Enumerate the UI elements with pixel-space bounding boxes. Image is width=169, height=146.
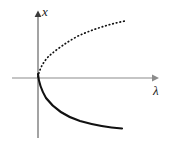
bifurcation-diagram-svg: x λ bbox=[0, 0, 169, 146]
x-axis-label: x bbox=[41, 4, 48, 19]
plot-background bbox=[0, 0, 169, 146]
lambda-axis-label: λ bbox=[152, 83, 159, 98]
figure-container: x λ bbox=[0, 0, 169, 146]
